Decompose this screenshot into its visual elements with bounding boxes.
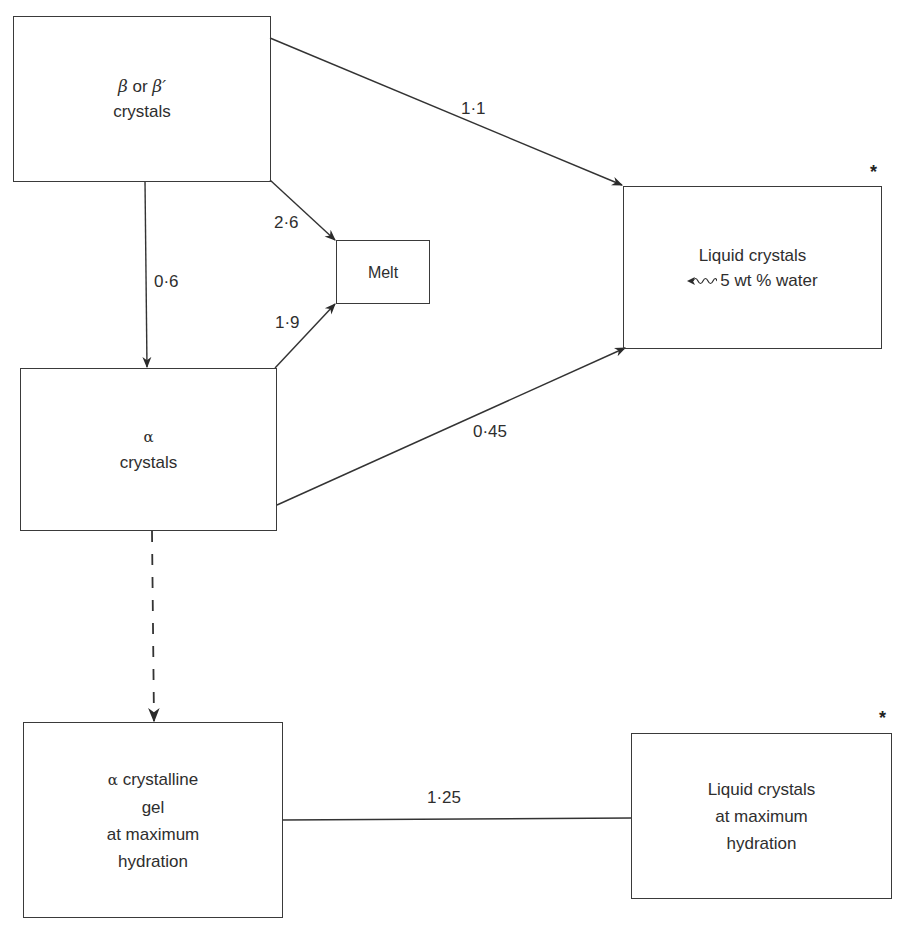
hydration-text: hydration <box>708 830 816 857</box>
crystalline-text: crystalline <box>118 770 198 789</box>
at-maximum-text: at maximum <box>708 803 816 830</box>
node-liquid-crystals-max-hydration: Liquid crystals at maximum hydration <box>631 733 892 899</box>
edge-label-gel-to-liquid-max: 1·25 <box>427 788 461 808</box>
node-alpha-crystals: α crystals <box>20 368 277 531</box>
node-liquid-crystals-max-hydration-label: Liquid crystals at maximum hydration <box>708 776 816 857</box>
node-melt-label: Melt <box>368 260 398 285</box>
edge-gel-to-liquid-crystals-max <box>282 818 632 820</box>
asterisk-marker: * <box>879 708 886 729</box>
node-alpha-crystals-label: α crystals <box>120 425 178 475</box>
liquid-crystals-text: Liquid crystals <box>687 243 817 268</box>
node-alpha-gel-label: α crystalline gel at maximum hydration <box>107 766 200 875</box>
node-liquid-crystals-low-water: Liquid crystals 5 wt % water <box>623 186 882 349</box>
node-beta-crystals: β or β′ crystals <box>13 16 271 182</box>
asterisk-marker: * <box>870 162 877 183</box>
edge-label-beta-to-alpha: 0·6 <box>154 272 179 292</box>
node-melt: Melt <box>336 240 430 304</box>
beta-crystals-text: crystals <box>113 99 171 124</box>
at-maximum-text: at maximum <box>107 821 200 848</box>
alpha-symbol: α <box>120 425 178 450</box>
edge-beta-to-alpha <box>145 181 147 367</box>
phase-diagram: β or β′ crystals Melt Liquid crystals 5 … <box>0 0 908 925</box>
node-beta-crystals-label: β or β′ crystals <box>113 74 171 124</box>
edge-alpha-to-liquid-crystals <box>277 348 625 505</box>
hydration-text: hydration <box>107 848 200 875</box>
or-text: or <box>128 77 153 96</box>
edge-alpha-to-gel-dashed <box>152 531 154 721</box>
edge-beta-to-liquid-crystals <box>270 38 622 185</box>
alpha-crystals-text: crystals <box>120 450 178 475</box>
edge-label-alpha-to-melt: 1·9 <box>275 313 300 333</box>
edge-label-beta-to-liquid: 1·1 <box>461 99 486 119</box>
edge-label-alpha-to-liquid: 0·45 <box>473 422 507 442</box>
node-alpha-gel: α crystalline gel at maximum hydration <box>23 722 283 918</box>
edge-label-beta-to-melt: 2·6 <box>274 213 299 233</box>
node-liquid-crystals-low-water-label: Liquid crystals 5 wt % water <box>687 243 817 293</box>
liquid-crystals-text: Liquid crystals <box>708 776 816 803</box>
gel-text: gel <box>107 794 200 821</box>
alpha-symbol: α <box>108 771 118 789</box>
wavy-arrow-icon <box>687 275 717 287</box>
water-content-text: 5 wt % water <box>720 271 817 290</box>
beta-prime-symbol: β′ <box>152 76 166 96</box>
beta-symbol: β <box>118 76 128 96</box>
